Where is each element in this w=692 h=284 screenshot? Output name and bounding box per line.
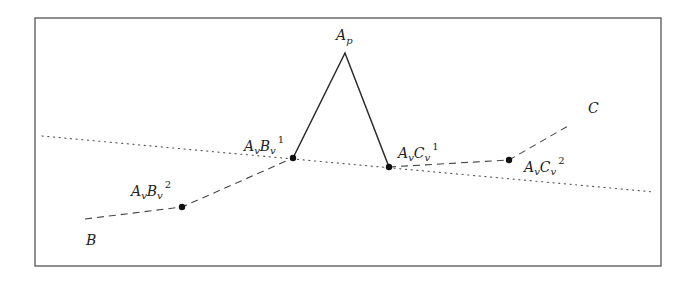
diagram-canvas: Ap AvBv1 AvCv1 AvBv2 AvCv2 B C [0,0,692,284]
label-AvCv2: AvCv2 [522,155,565,177]
label-AvBv2: AvBv2 [129,179,171,201]
point-AvBv2 [179,204,185,210]
solid-peak-Ap [293,53,389,167]
label-B: B [85,232,96,248]
point-AvCv2 [506,157,512,163]
frame-border [35,18,661,266]
label-AvCv1: AvCv1 [396,141,439,163]
diagram-figure: Ap AvBv1 AvCv1 AvBv2 AvCv2 B C [0,0,692,284]
point-AvBv1 [290,155,296,161]
label-AvBv1: AvBv1 [242,134,284,156]
label-Ap: Ap [334,27,353,46]
label-C: C [588,100,599,116]
point-AvCv1 [386,164,392,170]
dashed-path-to-B [85,158,293,219]
